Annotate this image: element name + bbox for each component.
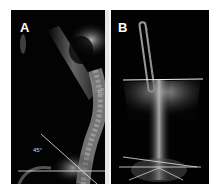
angle-annotation: 45° <box>33 147 42 153</box>
panel-b-xray-image <box>111 10 209 184</box>
panel-a-xray-image <box>11 10 109 184</box>
xray-figure: A 45° CR RO <box>11 10 209 184</box>
panel-b-ap-xray: B <box>111 10 209 184</box>
panel-a-lateral-xray: A 45° CR RO <box>11 10 109 184</box>
panel-a-label: A <box>20 21 29 34</box>
radiograph-marker: CR RO <box>98 88 104 96</box>
panel-b-label: B <box>118 21 127 34</box>
